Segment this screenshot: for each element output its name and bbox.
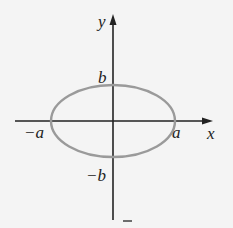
diagram-canvas: y x b −b −a a <box>0 0 233 228</box>
label-pos-b: b <box>98 68 107 87</box>
label-neg-a: −a <box>24 123 44 142</box>
y-axis-arrow-icon <box>110 14 117 25</box>
x-axis-label: x <box>206 124 215 143</box>
y-axis-label: y <box>96 12 106 31</box>
ellipse-diagram: y x b −b −a a <box>0 0 233 228</box>
label-neg-b: −b <box>86 166 106 185</box>
label-pos-a: a <box>172 123 181 142</box>
